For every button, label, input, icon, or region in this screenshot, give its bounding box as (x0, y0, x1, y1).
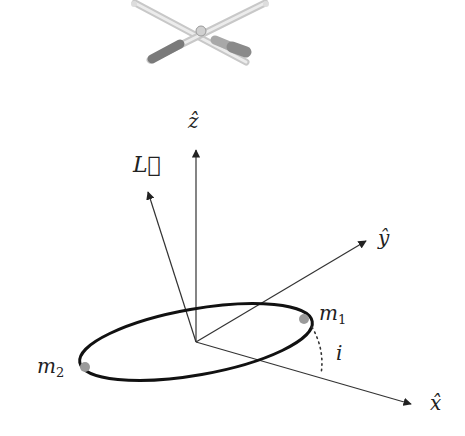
y-axis-label: ŷ (377, 226, 390, 250)
x-axis-label: x̂ (430, 391, 441, 415)
x-axis (196, 342, 411, 404)
mass-m2-dot (80, 362, 90, 372)
inclination-arc (312, 327, 322, 374)
interferometer-icon (131, 1, 269, 62)
mass-m1-dot (299, 314, 309, 324)
inclination-label: i (336, 341, 342, 365)
mass-m1-label: m1 (319, 301, 346, 327)
angular-momentum-vector (148, 192, 196, 342)
orbit-diagram: ẑ ŷ x̂ L⃗ m1 m2 i (0, 0, 465, 436)
angular-momentum-label: L⃗ (132, 152, 161, 177)
mass-m2-label: m2 (37, 354, 64, 380)
z-axis-label: ẑ (187, 109, 199, 133)
